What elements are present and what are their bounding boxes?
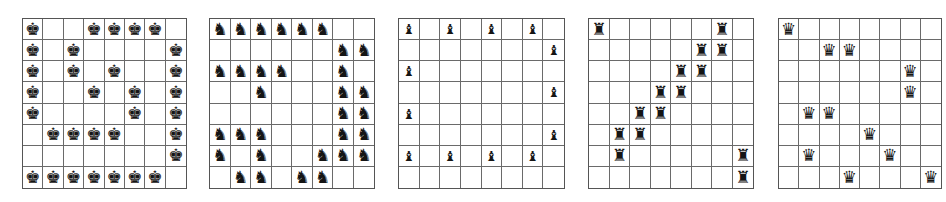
board-square: ♚: [145, 167, 165, 188]
board-square: [799, 125, 819, 146]
board-square: [461, 40, 482, 61]
board-square: [860, 19, 880, 40]
board-square: [799, 40, 819, 61]
bishop-icon: ♝: [547, 85, 560, 99]
bishop-icon: ♝: [403, 64, 416, 78]
board-square: [712, 82, 733, 103]
board-square: [105, 104, 125, 125]
rook-icon: ♜: [694, 42, 709, 59]
board-square: [860, 167, 880, 188]
rook-icon: ♜: [653, 84, 668, 101]
board-square: [589, 125, 610, 146]
board-square: [420, 19, 441, 40]
knights-board: ♞♞♞♞♞♞♞♞♞♞♞♞♞♞♞♞♞♞♞♞♞♞♞♞♞♞♞♞♞♞♞♞: [209, 18, 375, 189]
board-square: [420, 104, 441, 125]
board-square: [840, 61, 860, 82]
board-square: [820, 167, 840, 188]
king-icon: ♚: [147, 169, 162, 186]
board-square: [461, 61, 482, 82]
board-square: ♞: [251, 167, 272, 188]
board-square: ♞: [210, 61, 231, 82]
board-square: [125, 125, 145, 146]
board-square: ♛: [880, 146, 900, 167]
king-icon: ♚: [66, 42, 81, 59]
board-square: ♚: [23, 40, 43, 61]
board-square: [105, 40, 125, 61]
board-square: [799, 61, 819, 82]
board-square: [84, 40, 104, 61]
board-square: [231, 40, 252, 61]
board-square: [779, 125, 799, 146]
board-square: [210, 82, 231, 103]
board-square: [589, 104, 610, 125]
knight-icon: ♞: [212, 63, 227, 80]
board-square: [651, 40, 672, 61]
board-square: ♝: [440, 19, 461, 40]
board-square: ♞: [231, 19, 252, 40]
knight-icon: ♞: [315, 169, 330, 186]
board-square: [420, 61, 441, 82]
bishop-icon: ♝: [526, 22, 539, 36]
board-square: [880, 125, 900, 146]
board-square: [502, 104, 523, 125]
board-square: [543, 146, 564, 167]
board-square: [733, 82, 754, 103]
board-square: ♜: [610, 146, 631, 167]
board-square: ♞: [210, 19, 231, 40]
board-square: [799, 82, 819, 103]
board-square: [84, 61, 104, 82]
board-square: ♞: [251, 82, 272, 103]
board-square: ♞: [231, 61, 252, 82]
board-square: [43, 19, 63, 40]
board-square: [210, 40, 231, 61]
board-square: [502, 61, 523, 82]
board-square: [272, 104, 293, 125]
board-square: [523, 61, 544, 82]
knight-icon: ♞: [356, 126, 371, 143]
rook-icon: ♜: [735, 147, 750, 164]
board-square: [166, 167, 186, 188]
board-square: ♝: [399, 104, 420, 125]
board-square: ♞: [333, 40, 354, 61]
knight-icon: ♞: [233, 169, 248, 186]
board-square: [543, 167, 564, 188]
board-square: [333, 19, 354, 40]
board-square: [272, 40, 293, 61]
board-square: [43, 61, 63, 82]
king-icon: ♚: [127, 21, 142, 38]
board-square: [712, 167, 733, 188]
board-square: [880, 82, 900, 103]
board-square: [523, 82, 544, 103]
board-square: [354, 19, 375, 40]
king-icon: ♚: [25, 105, 40, 122]
board-square: ♞: [313, 146, 334, 167]
board-square: ♚: [125, 104, 145, 125]
board-square: [461, 125, 482, 146]
board-square: ♞: [251, 61, 272, 82]
board-square: [820, 82, 840, 103]
queen-icon: ♛: [903, 84, 918, 101]
board-square: ♞: [354, 82, 375, 103]
board-square: [880, 40, 900, 61]
board-square: [482, 167, 503, 188]
bishop-icon: ♝: [403, 22, 416, 36]
king-icon: ♚: [168, 105, 183, 122]
board-square: [292, 125, 313, 146]
board-square: [671, 125, 692, 146]
board-square: [482, 82, 503, 103]
board-square: ♛: [860, 125, 880, 146]
queen-icon: ♛: [822, 42, 837, 59]
board-square: ♜: [671, 82, 692, 103]
board-square: ♜: [610, 125, 631, 146]
board-square: [651, 167, 672, 188]
board-square: [779, 146, 799, 167]
board-square: ♚: [145, 19, 165, 40]
board-square: [733, 104, 754, 125]
board-square: [420, 125, 441, 146]
board-square: [692, 19, 713, 40]
board-square: [610, 61, 631, 82]
board-square: [630, 167, 651, 188]
knight-icon: ♞: [335, 105, 350, 122]
board-square: ♛: [799, 104, 819, 125]
board-square: [145, 146, 165, 167]
